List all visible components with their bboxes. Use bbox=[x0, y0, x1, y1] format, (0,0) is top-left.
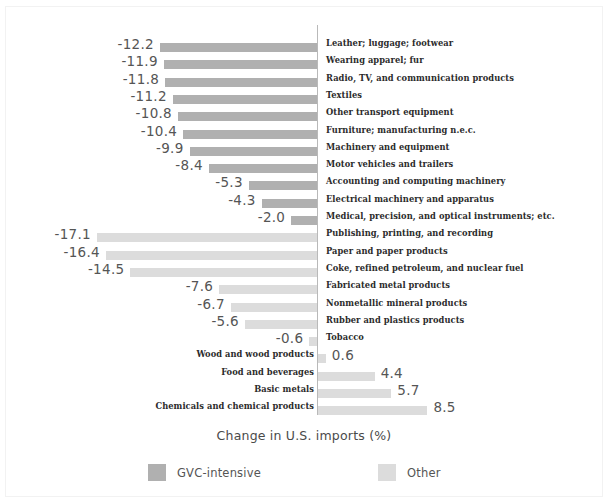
bar-row: -4.3Electrical machinery and apparatus bbox=[0, 195, 608, 212]
bar-value-label: -4.3 bbox=[228, 192, 256, 208]
bar-value-label: -9.9 bbox=[156, 140, 184, 156]
bar-row: -8.4Motor vehicles and trailers bbox=[0, 160, 608, 177]
bar-row: -9.9Machinery and equipment bbox=[0, 143, 608, 160]
chart-legend: GVC-intensive Other bbox=[0, 463, 608, 485]
category-label: Food and beverages bbox=[221, 367, 314, 377]
bar-row: 8.5Chemicals and chemical products bbox=[0, 402, 608, 419]
category-label: Accounting and computing machinery bbox=[326, 176, 505, 186]
bar-value-label: -5.3 bbox=[215, 174, 243, 190]
category-label: Electrical machinery and apparatus bbox=[326, 194, 494, 204]
bar-value-label: -0.6 bbox=[276, 330, 304, 346]
bar-gvc-intensive bbox=[262, 199, 317, 208]
category-label: Motor vehicles and trailers bbox=[326, 159, 453, 169]
bar-row: -11.8Radio, TV, and communication produc… bbox=[0, 74, 608, 91]
bar-row: -6.7Nonmetallic mineral products bbox=[0, 299, 608, 316]
category-label: Fabricated metal products bbox=[326, 280, 450, 290]
bar-value-label: -10.4 bbox=[141, 123, 177, 139]
bar-value-label: 4.4 bbox=[381, 365, 403, 381]
category-label: Medical, precision, and optical instrume… bbox=[326, 211, 555, 221]
bar-value-label: -8.4 bbox=[175, 157, 203, 173]
bar-value-label: -17.1 bbox=[55, 226, 91, 242]
legend-swatch-gvc-intensive bbox=[148, 464, 166, 481]
x-axis-title: Change in U.S. imports (%) bbox=[0, 428, 608, 443]
bar-value-label: -14.5 bbox=[88, 261, 124, 277]
bar-row: -5.6Rubber and plastics products bbox=[0, 316, 608, 333]
bar-other bbox=[231, 303, 317, 312]
bar-value-label: -11.8 bbox=[123, 71, 159, 87]
bar-value-label: -6.7 bbox=[197, 296, 225, 312]
bar-gvc-intensive bbox=[190, 147, 317, 156]
bar-gvc-intensive bbox=[249, 181, 317, 190]
bar-row: -11.2Textiles bbox=[0, 91, 608, 108]
legend-swatch-other bbox=[378, 464, 396, 481]
bar-other bbox=[106, 251, 317, 260]
bar-other bbox=[318, 372, 375, 381]
bar-value-label: -11.2 bbox=[130, 88, 166, 104]
bar-gvc-intensive bbox=[165, 78, 317, 87]
bar-gvc-intensive bbox=[178, 112, 317, 121]
bar-row: -10.4Furniture; manufacturing n.e.c. bbox=[0, 126, 608, 143]
bar-row: -5.3Accounting and computing machinery bbox=[0, 177, 608, 194]
bar-value-label: -10.8 bbox=[136, 105, 172, 121]
category-label: Paper and paper products bbox=[326, 246, 448, 256]
bar-row: -0.6Tobacco bbox=[0, 333, 608, 350]
category-label: Basic metals bbox=[254, 384, 314, 394]
bar-other bbox=[97, 233, 317, 242]
category-label: Wood and wood products bbox=[196, 349, 314, 359]
bar-value-label: 8.5 bbox=[433, 399, 455, 415]
bar-other bbox=[245, 320, 317, 329]
bar-row: -12.2Leather; luggage; footwear bbox=[0, 39, 608, 56]
bar-other bbox=[318, 406, 427, 415]
bar-row: -7.6Fabricated metal products bbox=[0, 281, 608, 298]
category-label: Machinery and equipment bbox=[326, 142, 449, 152]
bar-gvc-intensive bbox=[173, 95, 317, 104]
category-label: Rubber and plastics products bbox=[326, 315, 464, 325]
bar-row: 5.7Basic metals bbox=[0, 385, 608, 402]
bar-row: 0.6Wood and wood products bbox=[0, 350, 608, 367]
bar-row: -10.8Other transport equipment bbox=[0, 108, 608, 125]
bar-value-label: 5.7 bbox=[397, 382, 419, 398]
bar-other bbox=[318, 389, 391, 398]
bar-value-label: -2.0 bbox=[258, 209, 286, 225]
category-label: Textiles bbox=[326, 90, 362, 100]
category-label: Radio, TV, and communication products bbox=[326, 73, 514, 83]
category-label: Chemicals and chemical products bbox=[156, 401, 315, 411]
bar-other bbox=[309, 337, 317, 346]
bar-value-label: -7.6 bbox=[186, 278, 214, 294]
category-label: Furniture; manufacturing n.e.c. bbox=[326, 125, 476, 135]
bar-value-label: 0.6 bbox=[332, 347, 354, 363]
category-label: Coke, refined petroleum, and nuclear fue… bbox=[326, 263, 524, 273]
category-label: Nonmetallic mineral products bbox=[326, 298, 467, 308]
category-label: Leather; luggage; footwear bbox=[326, 38, 453, 48]
category-label: Wearing apparel; fur bbox=[326, 55, 424, 65]
bar-other bbox=[130, 268, 317, 277]
category-label: Publishing, printing, and recording bbox=[326, 228, 493, 238]
category-label: Tobacco bbox=[326, 332, 364, 342]
bar-gvc-intensive bbox=[160, 43, 317, 52]
bar-gvc-intensive bbox=[183, 130, 317, 139]
bar-gvc-intensive bbox=[164, 60, 317, 69]
bar-row: -14.5Coke, refined petroleum, and nuclea… bbox=[0, 264, 608, 281]
bar-row: 4.4Food and beverages bbox=[0, 368, 608, 385]
bar-value-label: -16.4 bbox=[64, 244, 100, 260]
legend-label-gvc-intensive: GVC-intensive bbox=[177, 466, 261, 480]
bar-row: -11.9Wearing apparel; fur bbox=[0, 56, 608, 73]
bar-value-label: -12.2 bbox=[118, 36, 154, 52]
category-label: Other transport equipment bbox=[326, 107, 454, 117]
bar-other bbox=[318, 354, 326, 363]
bar-other bbox=[219, 285, 317, 294]
bar-value-label: -11.9 bbox=[121, 53, 157, 69]
legend-label-other: Other bbox=[407, 466, 441, 480]
bar-gvc-intensive bbox=[291, 216, 317, 225]
chart-page: -12.2Leather; luggage; footwear-11.9Wear… bbox=[0, 0, 608, 503]
bar-value-label: -5.6 bbox=[211, 313, 239, 329]
bar-gvc-intensive bbox=[209, 164, 317, 173]
bar-row: -2.0Medical, precision, and optical inst… bbox=[0, 212, 608, 229]
